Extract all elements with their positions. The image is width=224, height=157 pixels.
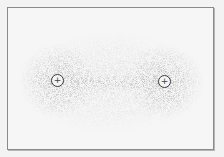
plus-charge-icon: + — [161, 77, 169, 86]
plus-charge-icon: + — [54, 76, 62, 85]
electron-density-cloud — [8, 8, 213, 149]
nucleus-left: + — [51, 74, 64, 87]
diagram-frame — [7, 7, 214, 150]
nucleus-right: + — [158, 75, 171, 88]
